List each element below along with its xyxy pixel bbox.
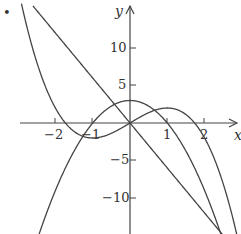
- x-tick-label: −2: [44, 127, 63, 142]
- y-tick-label: 10: [110, 40, 127, 55]
- x-tick-label: 1: [163, 127, 171, 142]
- graph: • x y −2 −1 1 2 10 5 −5 −10: [0, 0, 241, 234]
- bullet-marker: •: [3, 5, 11, 20]
- y-tick-label: 5: [118, 77, 126, 92]
- y-axis-label: y: [114, 3, 124, 19]
- x-axis-label: x: [234, 127, 241, 143]
- x-tick-label: 2: [200, 127, 208, 142]
- y-tick-label: −5: [110, 152, 129, 167]
- y-tick-label: −10: [102, 190, 129, 205]
- x-ticks: −2 −1 1 2: [44, 118, 208, 142]
